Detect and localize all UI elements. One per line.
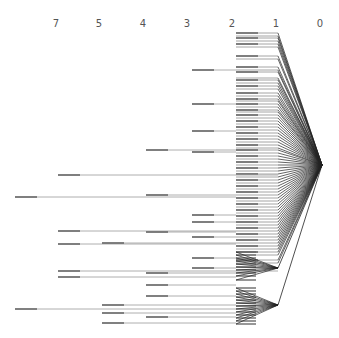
depth-label: 0 (317, 18, 323, 29)
hub-edge (236, 305, 278, 321)
depth-label: 2 (229, 18, 235, 29)
depth-label: 1 (273, 18, 279, 29)
branch-lines (15, 33, 278, 324)
depth-label: 7 (53, 18, 59, 29)
depth-label: 3 (184, 18, 190, 29)
depth-label: 4 (140, 18, 146, 29)
depth-label: 5 (96, 18, 102, 29)
tree-diagram (0, 0, 339, 338)
